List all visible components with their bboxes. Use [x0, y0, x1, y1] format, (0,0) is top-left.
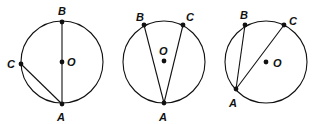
circle-diagram-3: BCAO: [225, 9, 307, 109]
circle-diagram-2: BCAO: [123, 11, 205, 123]
chord-AC: [164, 25, 183, 103]
label-C: C: [289, 15, 298, 27]
point-B: [142, 23, 147, 28]
center-point-O: [162, 59, 167, 64]
center-point-O: [264, 60, 269, 65]
point-A: [162, 101, 167, 106]
chord-AB: [144, 25, 164, 103]
label-B: B: [136, 11, 144, 23]
point-C: [282, 23, 287, 28]
label-B: B: [240, 9, 248, 21]
label-O: O: [159, 45, 168, 57]
label-A: A: [158, 111, 167, 123]
label-O: O: [67, 56, 76, 68]
point-B: [60, 20, 65, 25]
point-A: [60, 102, 65, 107]
inscribed-angle-figure: BCAOBCAOBCAO: [0, 0, 317, 124]
label-A: A: [228, 97, 237, 109]
point-C: [181, 23, 186, 28]
point-C: [19, 62, 24, 67]
label-O: O: [273, 57, 282, 69]
center-point-O: [60, 60, 65, 65]
circle-diagram-1: BCAO: [7, 5, 103, 123]
label-C: C: [186, 11, 195, 23]
label-B: B: [58, 5, 66, 17]
point-A: [234, 87, 239, 92]
point-B: [243, 23, 248, 28]
label-A: A: [56, 111, 65, 123]
label-C: C: [7, 58, 16, 70]
